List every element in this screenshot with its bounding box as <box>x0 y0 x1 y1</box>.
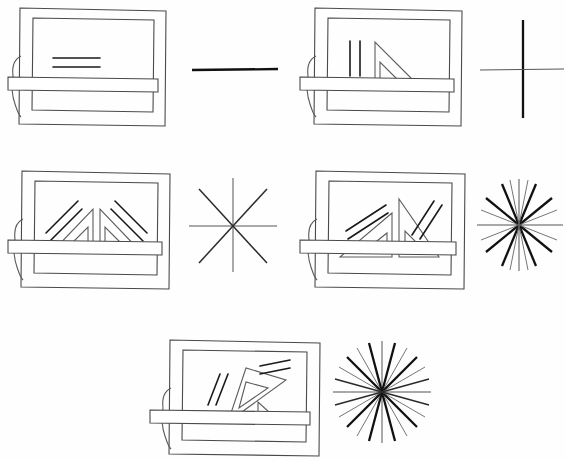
panel-figure-3 <box>186 175 281 275</box>
board-illustration-4 <box>300 165 475 295</box>
sketch-stroke <box>420 205 442 239</box>
board-paper-frame-icon <box>34 181 158 275</box>
board-outer-frame-icon <box>315 171 465 289</box>
board-outer-frame-icon <box>314 8 462 126</box>
radial-figure-single-line-icon <box>190 20 282 120</box>
board-outer-frame-icon <box>21 171 170 289</box>
radial-figure-asterisk-icon <box>186 175 281 275</box>
board-illustration-5 <box>150 330 330 458</box>
board-outer-frame-icon <box>169 340 320 456</box>
panel-figure-4 <box>474 176 566 274</box>
board-paper-frame-icon <box>328 181 452 275</box>
tsquare-bar-icon <box>8 240 162 255</box>
ray-stroke <box>192 69 278 70</box>
tsquare-bar-icon <box>8 77 158 92</box>
panel-figure-5 <box>330 338 435 446</box>
sketch-stroke <box>260 368 290 374</box>
ray-stroke <box>480 69 564 70</box>
board-illustration-2 <box>300 4 475 134</box>
radial-figure-cross-icon <box>478 14 566 124</box>
figure-sheet <box>0 0 566 460</box>
panel-drawing-board-4 <box>300 165 475 295</box>
tsquare-bar-icon <box>300 240 456 255</box>
radial-figure-starburst-16-icon <box>474 176 566 274</box>
starburst-rays <box>477 179 563 271</box>
board-paper-frame-icon <box>327 18 450 112</box>
tsquare-bar-icon <box>150 410 310 425</box>
board-illustration-3 <box>8 165 183 295</box>
panel-drawing-board-2 <box>300 4 475 134</box>
board-illustration-1 <box>8 4 178 134</box>
sketch-stroke <box>260 360 290 366</box>
sketch-stroke <box>412 201 434 235</box>
panel-drawing-board-3 <box>8 165 183 295</box>
tsquare-bar-icon <box>300 77 454 92</box>
radial-figure-starburst-24-icon <box>330 338 435 446</box>
board-paper-frame-icon <box>182 350 307 442</box>
panel-figure-2 <box>478 14 566 124</box>
panel-drawing-board-5 <box>150 330 330 458</box>
board-paper-frame-icon <box>32 18 154 112</box>
panel-figure-1 <box>190 20 282 120</box>
starburst-rays <box>333 341 431 443</box>
panel-drawing-board-1 <box>8 4 178 134</box>
